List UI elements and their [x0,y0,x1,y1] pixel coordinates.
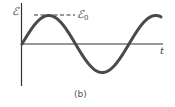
emf-sine-diagram: ℰ ℰ0 t (b) [0,0,175,107]
figure-caption: (b) [74,90,87,99]
amplitude-symbol: ℰ [77,8,84,21]
amplitude-subscript: 0 [84,14,88,22]
y-axis-label: ℰ [12,6,19,17]
amplitude-label: ℰ0 [77,9,88,22]
x-axis-label: t [160,46,164,56]
